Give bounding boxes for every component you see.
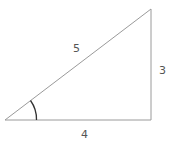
triangle-diagram [0, 0, 170, 145]
angle-arc [31, 101, 37, 121]
right-triangle [5, 9, 151, 120]
vertical-side-label: 3 [159, 65, 166, 76]
hypotenuse-label: 5 [73, 43, 80, 54]
base-label: 4 [81, 129, 88, 140]
